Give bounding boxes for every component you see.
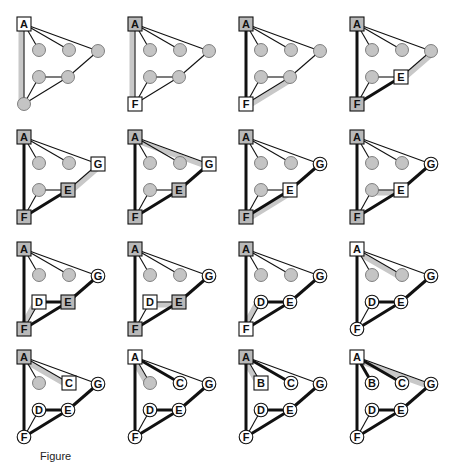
node-D: D [365, 295, 379, 309]
node-F: F [128, 97, 142, 111]
svg-text:F: F [354, 431, 361, 443]
node-D: D [254, 403, 268, 417]
node-F: F [128, 322, 142, 336]
node-F: F [239, 322, 253, 336]
node-G: G [424, 269, 438, 283]
svg-text:F: F [354, 98, 361, 110]
node-B [33, 377, 46, 390]
node-E: E [394, 295, 408, 309]
node-A: A [128, 17, 142, 31]
svg-text:A: A [353, 131, 361, 143]
node-A: A [239, 350, 253, 364]
node-A: A [350, 17, 364, 31]
node-F: F [239, 97, 253, 111]
node-G [92, 45, 105, 58]
node-E [173, 71, 186, 84]
node-E: E [283, 295, 297, 309]
node-C: C [395, 376, 409, 390]
node-A: A [17, 242, 31, 256]
graph-panel-11: AGDEF [239, 242, 327, 336]
svg-text:G: G [316, 158, 325, 170]
graph-panel-4: AEF [350, 17, 438, 111]
svg-text:C: C [65, 377, 73, 389]
node-B [366, 157, 379, 170]
graph-panel-2: AF [128, 17, 216, 111]
svg-text:E: E [397, 184, 404, 196]
node-D [255, 71, 268, 84]
svg-text:A: A [20, 243, 28, 255]
node-E: E [61, 295, 75, 309]
node-G: G [91, 269, 105, 283]
graph-panel-13: ACGDEF [17, 350, 105, 444]
node-E: E [172, 295, 186, 309]
node-E: E [283, 183, 297, 197]
node-C [396, 44, 409, 57]
node-F: F [350, 210, 364, 224]
svg-text:F: F [243, 431, 250, 443]
node-C [396, 157, 409, 170]
svg-text:E: E [175, 184, 182, 196]
svg-text:F: F [354, 323, 361, 335]
node-E: E [172, 403, 186, 417]
graph-panel-9: AGDEF [17, 242, 105, 336]
svg-text:A: A [353, 243, 361, 255]
node-E: E [172, 183, 186, 197]
graph-panel-10: AGDEF [128, 242, 216, 336]
node-C: C [173, 376, 187, 390]
node-E: E [394, 70, 408, 84]
node-E: E [61, 183, 75, 197]
svg-text:G: G [427, 158, 436, 170]
svg-text:A: A [242, 243, 250, 255]
node-C [285, 44, 298, 57]
graph-panel-6: AGEF [128, 130, 216, 224]
node-B [33, 44, 46, 57]
svg-text:G: G [94, 270, 103, 282]
svg-text:D: D [146, 296, 154, 308]
node-A: A [17, 130, 31, 144]
svg-text:E: E [397, 404, 404, 416]
svg-text:C: C [287, 377, 295, 389]
graph-panel-1: A [17, 17, 105, 111]
node-F: F [17, 322, 31, 336]
node-G: G [424, 377, 438, 391]
svg-text:G: G [427, 270, 436, 282]
node-G: G [424, 157, 438, 171]
node-A: A [239, 17, 253, 31]
node-E [284, 71, 297, 84]
node-A: A [239, 130, 253, 144]
node-B [144, 44, 157, 57]
svg-text:D: D [35, 296, 43, 308]
svg-text:G: G [205, 158, 214, 170]
node-D [144, 184, 157, 197]
node-A: A [17, 350, 31, 364]
node-F: F [350, 97, 364, 111]
svg-text:A: A [242, 351, 250, 363]
node-C [285, 157, 298, 170]
svg-text:F: F [21, 323, 28, 335]
node-G: G [202, 269, 216, 283]
svg-text:G: G [205, 378, 214, 390]
svg-text:D: D [35, 404, 43, 416]
svg-text:E: E [286, 296, 293, 308]
node-G: G [313, 157, 327, 171]
svg-text:G: G [316, 378, 325, 390]
edge-EF [135, 410, 179, 437]
highlight-edge-FE [248, 80, 292, 107]
node-A: A [350, 242, 364, 256]
graph-panel-12: AGDEF [350, 242, 438, 336]
node-D: D [32, 295, 46, 309]
svg-text:E: E [286, 404, 293, 416]
node-B: B [365, 376, 379, 390]
svg-text:D: D [257, 404, 265, 416]
graph-panel-15: ABCGDEF [239, 350, 327, 444]
edge-EF [357, 302, 401, 329]
svg-text:B: B [257, 377, 265, 389]
svg-text:F: F [132, 211, 139, 223]
node-D: D [365, 403, 379, 417]
node-B [144, 377, 157, 390]
node-D [366, 184, 379, 197]
node-B [144, 269, 157, 282]
edge-EF [24, 410, 68, 437]
svg-text:A: A [20, 131, 28, 143]
node-G: G [91, 157, 105, 171]
